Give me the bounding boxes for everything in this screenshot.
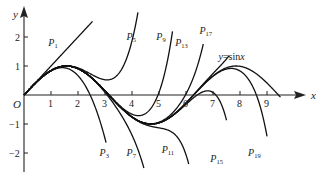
curve-label-y-sinx: y=sinx <box>217 51 245 62</box>
curve-label-p1: P1 <box>47 37 57 49</box>
x-tick-label: 5 <box>156 98 161 109</box>
curve-label-p3: P3 <box>99 147 109 159</box>
y-tick-label: −2 <box>9 148 20 159</box>
curve-p19 <box>24 66 267 136</box>
x-tick-label: 7 <box>210 98 215 109</box>
x-tick-label: 6 <box>183 98 188 109</box>
x-tick-label: 9 <box>264 98 269 109</box>
x-tick-label: 3 <box>102 98 107 109</box>
curve-label-p15: P15 <box>209 153 223 165</box>
x-tick-label: 8 <box>237 98 242 109</box>
x-tick-label: 2 <box>75 98 80 109</box>
taylor-polynomials-sine-chart: x y O 123456789−2−112 P1P3P5P7P9P11P13P1… <box>0 0 320 181</box>
curves-layer <box>24 12 281 168</box>
curve-p5 <box>24 12 138 95</box>
curve-label-p19: P19 <box>247 147 261 159</box>
y-tick-label: 2 <box>15 32 20 43</box>
y-tick-label: −1 <box>9 119 20 130</box>
curve-label-p7: P7 <box>126 147 137 159</box>
curve-label-p9: P9 <box>155 31 165 43</box>
curve-label-p17: P17 <box>199 25 213 37</box>
y-tick-label: 1 <box>15 61 20 72</box>
curve-label-p13: P13 <box>174 37 188 49</box>
x-axis-label: x <box>310 89 316 101</box>
x-tick-label: 1 <box>48 98 53 109</box>
curve-label-p11: P11 <box>161 144 174 156</box>
x-tick-label: 4 <box>129 98 134 109</box>
origin-label: O <box>13 98 21 110</box>
y-axis-label: y <box>12 8 18 20</box>
